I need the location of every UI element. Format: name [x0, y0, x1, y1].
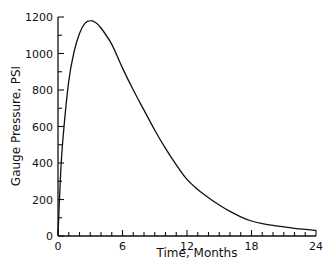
x-tick-label: 0 [55, 240, 62, 253]
x-tick-label: 6 [119, 240, 126, 253]
axes [58, 17, 316, 236]
pressure-chart: 06121824020040060080010001200 Time, Mont… [0, 0, 330, 271]
y-tick-label: 600 [32, 121, 53, 134]
y-tick-label: 1200 [25, 11, 53, 24]
ticks [58, 17, 316, 236]
y-tick-label: 400 [32, 157, 53, 170]
y-axis-title: Gauge Pressure, PSI [9, 66, 23, 186]
y-tick-label: 0 [46, 230, 53, 243]
pressure-curve [58, 21, 316, 236]
y-tick-label: 1000 [25, 48, 53, 61]
x-tick-label: 18 [245, 240, 259, 253]
x-axis-title: Time, Months [156, 246, 238, 260]
tick-labels: 06121824020040060080010001200 [25, 11, 323, 253]
x-tick-label: 24 [309, 240, 323, 253]
y-tick-label: 200 [32, 194, 53, 207]
y-tick-label: 800 [32, 84, 53, 97]
